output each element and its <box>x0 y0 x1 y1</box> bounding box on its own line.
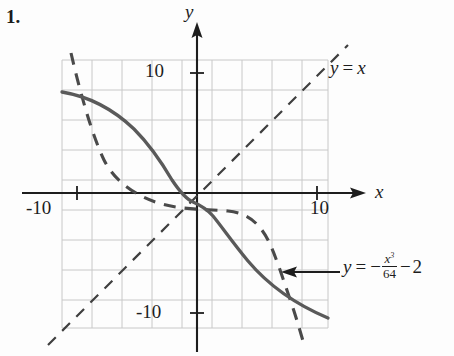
annotation-y-equals-x-lhs: y <box>330 57 338 78</box>
cubic-equals: = <box>355 256 366 277</box>
y-tick-label-neg10: -10 <box>136 302 161 321</box>
cubic-denominator: 64 <box>382 267 397 281</box>
y-axis-label: y <box>185 2 193 21</box>
cubic-leading-minus: − <box>370 256 381 277</box>
cubic-exponent: 3 <box>390 251 394 260</box>
cubic-lhs: y <box>343 256 351 277</box>
y-tick-label-10: 10 <box>145 61 164 80</box>
x-tick-label-10: 10 <box>310 198 329 217</box>
annotation-y-equals-x-rhs: x <box>357 57 365 78</box>
graph-canvas <box>0 0 454 356</box>
annotation-cubic-equation: y=−x364−2 <box>343 252 422 281</box>
x-tick-label-neg10: -10 <box>26 198 51 217</box>
x-axis-label: x <box>375 182 383 201</box>
figure-container: 1. <box>0 0 454 356</box>
annotation-y-equals-x: y=x <box>330 58 366 77</box>
cubic-constant: 2 <box>413 256 423 277</box>
cubic-second-minus: − <box>400 256 411 277</box>
cubic-numerator: x3 <box>382 252 397 267</box>
curve-inverse <box>62 92 328 318</box>
cubic-fraction: x364 <box>382 252 397 281</box>
axes <box>22 30 358 352</box>
annotation-y-equals-x-op: = <box>342 57 353 78</box>
